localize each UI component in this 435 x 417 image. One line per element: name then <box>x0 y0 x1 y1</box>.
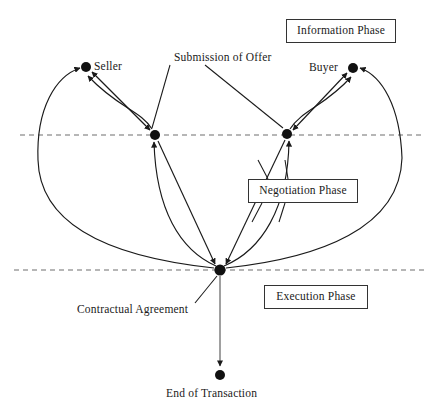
leader-negotiation-box-left <box>258 160 268 179</box>
node-end[interactable] <box>215 370 225 380</box>
edge-negotiation-right-to-buyer <box>290 77 351 129</box>
node-label-buyer: Buyer <box>309 61 338 73</box>
phase-box-negotiation[interactable]: Negotiation Phase <box>248 179 358 203</box>
leader-negotiation-box-bottom-right <box>279 203 285 222</box>
phase-divider-lines <box>14 135 424 270</box>
node-buyer[interactable] <box>348 63 358 73</box>
node-label-seller: Seller <box>94 60 122 72</box>
node-label-end-of-transaction: End of Transaction <box>166 387 257 399</box>
phase-box-information[interactable]: Information Phase <box>286 19 396 43</box>
edge-negotiation-left-to-seller <box>88 76 152 129</box>
node-label-contractual-agreement: Contractual Agreement <box>77 303 188 315</box>
diagram-canvas: Seller Buyer Submission of Offer Contrac… <box>0 0 435 417</box>
leader-submission-to-negotiation-right <box>205 65 283 128</box>
leader-submission-to-negotiation-left <box>152 65 170 128</box>
edge-contract-to-buyer <box>226 68 402 268</box>
diagram-edges <box>38 68 402 366</box>
edge-contract-to-seller <box>38 68 214 268</box>
edge-seller-negotiation-left <box>92 72 150 130</box>
node-negotiation-right[interactable] <box>282 129 292 139</box>
node-contract[interactable] <box>214 264 225 275</box>
leader-contractual-agreement <box>195 276 217 303</box>
node-negotiation-left[interactable] <box>150 130 160 140</box>
edge-buyer-negotiation-right <box>293 73 347 130</box>
node-seller[interactable] <box>81 62 91 72</box>
edge-negotiation-left-to-contract <box>158 141 215 264</box>
edge-label-submission-of-offer: Submission of Offer <box>174 51 272 63</box>
phase-box-execution[interactable]: Execution Phase <box>264 285 368 309</box>
